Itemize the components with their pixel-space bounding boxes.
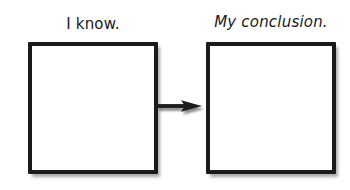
worksheet-canvas: I know.: [0, 0, 350, 190]
arrow-right-glyph: [155, 92, 207, 120]
box-label-conclusion: My conclusion.: [201, 13, 341, 31]
arrow-right-icon: [155, 92, 207, 120]
box-label-know: I know.: [28, 15, 158, 33]
box-know[interactable]: [28, 42, 158, 174]
box-conclusion[interactable]: [206, 42, 336, 174]
